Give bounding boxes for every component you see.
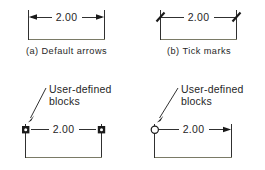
figure-tick-marks: 2.00 (b) Tick marks [133, 0, 265, 68]
figure-tick-marks-drawing: 2.00 [133, 0, 265, 68]
figure-caption-a: (a) Default arrows [0, 46, 133, 56]
annotation-line-1: User-defined [49, 83, 112, 95]
annotation-line-2: blocks [49, 95, 80, 107]
dimension-text: 2.00 [183, 123, 205, 135]
figure-user-defined-circle-block: User-defined blocks 2.00 [133, 76, 265, 170]
dimension-text: 2.00 [56, 11, 78, 23]
square-block-left-icon [22, 126, 29, 133]
leader-line [31, 88, 47, 118]
arrowhead-right-icon [223, 127, 231, 133]
figure-default-arrows-drawing: 2.00 [0, 0, 133, 68]
arrowhead-right-icon [96, 14, 104, 20]
dimension-text: 2.00 [53, 123, 75, 135]
figure-user-defined-square-blocks: User-defined blocks 2.00 [0, 76, 133, 170]
figure-caption-b: (b) Tick marks [133, 46, 265, 56]
figure-circle-block-drawing: User-defined blocks 2.00 [133, 76, 265, 170]
leader-line [160, 88, 179, 118]
annotation-line-1: User-defined [181, 83, 244, 95]
dimension-text: 2.00 [188, 11, 210, 23]
figure-default-arrows: 2.00 (a) Default arrows [0, 0, 133, 68]
square-block-right-icon [98, 126, 105, 133]
figure-square-blocks-drawing: User-defined blocks 2.00 [0, 76, 133, 170]
circle-block-left-icon [151, 126, 158, 133]
arrowhead-left-icon [29, 14, 37, 20]
annotation-line-2: blocks [181, 95, 212, 107]
